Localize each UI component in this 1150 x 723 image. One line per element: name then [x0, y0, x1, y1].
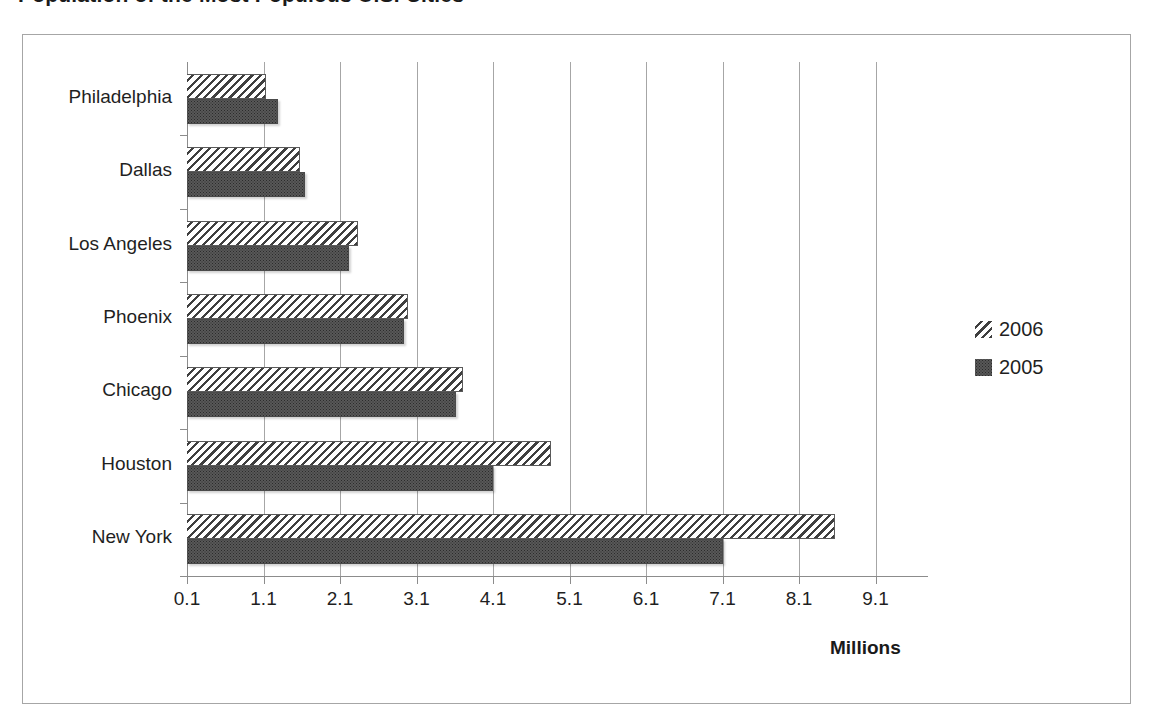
- chart-legend: 20062005: [975, 310, 1095, 386]
- y-axis-tick: [180, 209, 187, 210]
- y-axis-tick: [180, 429, 187, 430]
- chart-title: Population of the Most Populous U.S. Cit…: [18, 0, 464, 7]
- x-axis-tick-label: 2.1: [310, 588, 370, 610]
- gridline: [570, 62, 571, 576]
- x-axis-title: Millions: [830, 637, 901, 659]
- bar-2005-chicago[interactable]: [187, 392, 456, 417]
- category-label-phoenix: Phoenix: [0, 306, 172, 328]
- category-label-houston: Houston: [0, 453, 172, 475]
- x-axis-tick: [570, 576, 571, 584]
- bar-2005-houston[interactable]: [187, 466, 493, 491]
- x-axis-tick-label: 3.1: [387, 588, 447, 610]
- y-axis-tick: [180, 282, 187, 283]
- chart-title-strip: Population of the Most Populous U.S. Cit…: [0, 0, 1150, 22]
- x-axis-tick-label: 8.1: [769, 588, 829, 610]
- x-axis-tick-label: 0.1: [157, 588, 217, 610]
- category-label-chicago: Chicago: [0, 379, 172, 401]
- x-axis-tick: [187, 576, 188, 584]
- gridline: [417, 62, 418, 576]
- x-axis-tick-label: 5.1: [540, 588, 600, 610]
- bar-2005-philadelphia[interactable]: [187, 99, 278, 124]
- category-label-philadelphia: Philadelphia: [0, 86, 172, 108]
- legend-item-2005[interactable]: 2005: [975, 348, 1095, 386]
- gridline: [493, 62, 494, 576]
- y-axis-tick: [180, 135, 187, 136]
- bar-2006-philadelphia[interactable]: [187, 74, 266, 99]
- bar-2005-new-york[interactable]: [187, 539, 723, 564]
- bar-2006-chicago[interactable]: [187, 367, 463, 392]
- gridline: [723, 62, 724, 576]
- y-axis-tick: [180, 576, 187, 577]
- x-axis-tick-label: 1.1: [234, 588, 294, 610]
- gridline: [799, 62, 800, 576]
- x-axis-tick: [723, 576, 724, 584]
- bar-2006-dallas[interactable]: [187, 147, 300, 172]
- legend-swatch-2006: [975, 321, 992, 338]
- x-axis-tick: [799, 576, 800, 584]
- x-axis-tick-label: 9.1: [846, 588, 906, 610]
- bar-2005-los-angeles[interactable]: [187, 246, 349, 271]
- y-axis-tick: [180, 356, 187, 357]
- x-axis-tick: [417, 576, 418, 584]
- legend-label-2006: 2006: [999, 318, 1044, 341]
- x-axis-tick-label: 6.1: [616, 588, 676, 610]
- legend-label-2005: 2005: [999, 356, 1044, 379]
- bar-2005-phoenix[interactable]: [187, 319, 404, 344]
- bar-2006-new-york[interactable]: [187, 514, 835, 539]
- gridline: [646, 62, 647, 576]
- x-axis: [187, 576, 928, 577]
- category-label-new-york: New York: [0, 526, 172, 548]
- legend-swatch-2005: [975, 359, 992, 376]
- x-axis-tick: [264, 576, 265, 584]
- x-axis-tick-label: 7.1: [693, 588, 753, 610]
- category-label-dallas: Dallas: [0, 159, 172, 181]
- legend-item-2006[interactable]: 2006: [975, 310, 1095, 348]
- bar-2006-houston[interactable]: [187, 441, 551, 466]
- x-axis-tick: [876, 576, 877, 584]
- bar-2006-phoenix[interactable]: [187, 294, 408, 319]
- x-axis-tick: [340, 576, 341, 584]
- bar-2005-dallas[interactable]: [187, 172, 305, 197]
- y-axis-tick: [180, 503, 187, 504]
- x-axis-tick: [493, 576, 494, 584]
- category-label-los-angeles: Los Angeles: [0, 233, 172, 255]
- x-axis-tick: [646, 576, 647, 584]
- gridline: [876, 62, 877, 576]
- x-axis-tick-label: 4.1: [463, 588, 523, 610]
- bar-2006-los-angeles[interactable]: [187, 221, 358, 246]
